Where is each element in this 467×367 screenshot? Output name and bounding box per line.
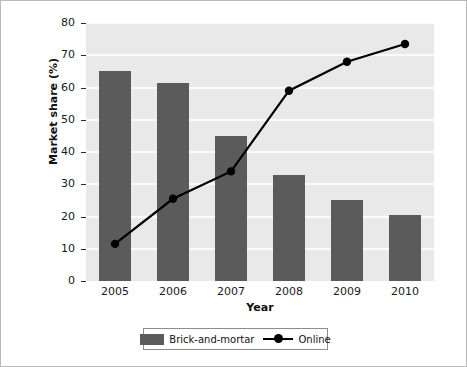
line-series-online [86,23,434,281]
legend-item-brick-and-mortar: Brick-and-mortar [140,334,254,345]
y-tick-mark [81,23,86,24]
y-tick-mark [81,55,86,56]
y-tick-mark [81,281,86,282]
legend-label-online: Online [298,334,330,345]
x-tick-label: 2007 [202,285,260,298]
legend-swatch-icon [140,334,164,345]
legend-label-brick-and-mortar: Brick-and-mortar [169,334,254,345]
x-tick-label: 2010 [376,285,434,298]
line-marker [111,240,119,248]
y-tick-mark [81,184,86,185]
online-line-svg [86,23,434,281]
y-tick-label: 20 [49,210,75,223]
x-tick-label: 2009 [318,285,376,298]
legend-item-online: Online [263,334,330,345]
legend-line-marker-icon [263,334,293,344]
online-line-path [115,44,405,244]
y-tick-label: 10 [49,242,75,255]
x-tick-label: 2008 [260,285,318,298]
y-tick-mark [81,88,86,89]
y-tick-mark [81,120,86,121]
line-marker [343,58,351,66]
chart-figure: 01020304050607080 2005200620072008200920… [0,0,467,367]
y-tick-label: 80 [49,16,75,29]
plot-area [86,23,434,281]
y-tick-mark [81,217,86,218]
x-tick-label: 2006 [144,285,202,298]
chart-legend: Brick-and-mortar Online [143,328,328,350]
x-axis-title: Year [86,301,434,314]
y-tick-label: 0 [49,274,75,287]
y-axis-title: Market share (%) [47,52,60,172]
y-tick-label: 30 [49,177,75,190]
line-marker [227,167,235,175]
y-tick-mark [81,152,86,153]
line-marker [401,40,409,48]
line-marker [169,195,177,203]
y-tick-mark [81,249,86,250]
line-marker [285,87,293,95]
x-tick-label: 2005 [86,285,144,298]
